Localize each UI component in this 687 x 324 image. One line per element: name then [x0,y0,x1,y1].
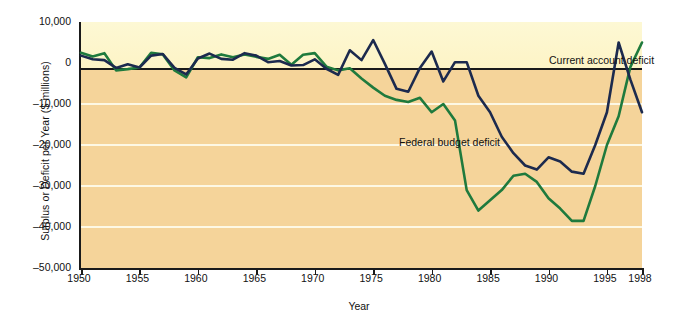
y-axis-tick-label: 10,000 [11,15,71,27]
annotation-federal-budget-deficit: Federal budget deficit [399,136,500,148]
x-axis-tick-label: 1990 [527,272,567,284]
x-axis-tick-label: 1955 [117,272,157,284]
x-axis-title: Year [78,300,640,312]
chart-figure: Surplus or Deficit per Year ($ millions)… [0,0,687,324]
x-axis-tick [373,268,375,275]
x-axis-tick-label: 1980 [410,272,450,284]
x-axis-tick [432,268,434,275]
x-axis-tick [256,268,258,275]
x-axis-tick-label: 1985 [468,272,508,284]
x-axis-tick [490,268,492,275]
x-axis-tick-label: 1998 [620,272,660,284]
x-axis-tick [549,268,551,275]
x-axis-tick-label: 1950 [59,272,99,284]
x-axis-tick-label: 1960 [176,272,216,284]
x-axis-tick [607,268,609,275]
x-axis-tick-label: 1995 [585,272,625,284]
x-axis-tick [315,268,317,275]
annotation-current-account-deficit: Current account deficit [549,54,654,66]
x-axis-tick-label: 1970 [293,272,333,284]
x-axis-tick-label: 1975 [351,272,391,284]
x-axis-tick [139,268,141,275]
y-axis-tick-label: –30,000 [11,179,71,191]
series-line-federal-budget-deficit [81,43,642,221]
x-axis-tick [642,268,644,275]
plot-area: Current account deficit Federal budget d… [79,22,642,270]
y-axis-tick-label: –20,000 [11,138,71,150]
x-axis-tick [198,268,200,275]
y-axis-tick-label: –10,000 [11,97,71,109]
y-axis-tick-label: 0 [11,56,71,68]
x-axis-tick [81,268,83,275]
y-axis-tick-label: –40,000 [11,220,71,232]
x-axis-tick-label: 1965 [234,272,274,284]
